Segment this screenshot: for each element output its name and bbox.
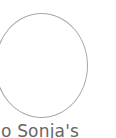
tile-caption[interactable]: lo Sonja's — [0, 121, 79, 138]
avatar-placeholder-circle-icon[interactable] — [0, 13, 88, 118]
